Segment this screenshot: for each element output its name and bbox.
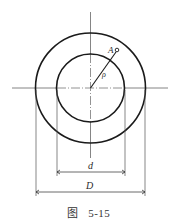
rho-label: ρ — [101, 70, 106, 79]
point-a-marker — [115, 48, 119, 52]
diagram-canvas: A ρ d D — [0, 0, 177, 223]
hollow-shaft-cross-section-figure: A ρ d D 图5-15 — [0, 0, 177, 223]
outer-diameter-dimension: D — [36, 180, 145, 192]
outer-diameter-label: D — [85, 180, 94, 191]
point-a-label: A — [107, 45, 114, 55]
caption-number: 5-15 — [88, 207, 110, 219]
caption-prefix: 图 — [67, 207, 79, 219]
figure-caption: 图5-15 — [0, 204, 177, 220]
inner-diameter-dimension: d — [57, 160, 125, 172]
inner-diameter-label: d — [88, 160, 94, 171]
